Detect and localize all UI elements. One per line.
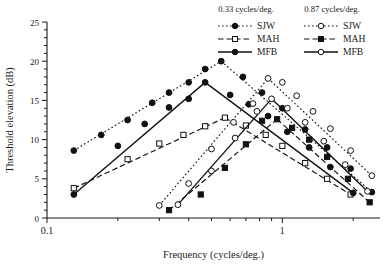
legend-label-mfb: MFB: [343, 46, 363, 57]
data-point-marker: [289, 125, 294, 130]
legend-label-sjw: SJW: [343, 20, 362, 31]
series-line: [159, 78, 268, 205]
data-point-marker: [125, 117, 131, 123]
y-tick-label: 25: [30, 18, 40, 28]
y-tick-label: 20: [30, 57, 40, 67]
data-point-marker: [186, 181, 192, 187]
legend-group-header: 0.87 cycles/deg.: [304, 4, 360, 14]
data-point-marker: [348, 166, 354, 172]
data-point-marker: [231, 119, 237, 125]
data-point-marker: [269, 96, 275, 102]
data-point-marker: [98, 132, 104, 138]
data-point-marker: [233, 37, 238, 42]
data-point-marker: [265, 76, 271, 82]
y-tick-label: 15: [30, 96, 40, 106]
legend-marker-mfb: [318, 49, 324, 55]
data-point-marker: [345, 176, 350, 181]
data-point-marker: [166, 105, 172, 111]
data-point-marker: [265, 113, 271, 119]
data-point-marker: [318, 49, 324, 55]
data-point-marker: [263, 132, 268, 137]
data-point-marker: [250, 101, 256, 107]
figure-container: 05101520250.11Frequency (cycles/deg.)Thr…: [0, 0, 392, 267]
data-point-marker: [342, 162, 348, 168]
series-line: [268, 78, 372, 175]
series-line: [74, 61, 221, 150]
data-point-marker: [259, 118, 264, 123]
legend-marker-mfb: [232, 49, 238, 55]
data-point-marker: [186, 96, 192, 102]
data-point-marker: [71, 148, 77, 154]
series-line: [205, 82, 353, 193]
series-mah-0-33-cycles-deg-: [71, 115, 353, 197]
legend-label-mah: MAH: [343, 33, 365, 44]
series-mfb-0-87-cycles-deg-: [175, 96, 370, 208]
data-point-marker: [115, 143, 121, 149]
data-point-marker: [166, 90, 172, 96]
legend-marker-mah: [233, 37, 238, 42]
data-point-marker: [186, 79, 192, 85]
data-point-marker: [209, 146, 215, 152]
x-tick-label: 0.1: [41, 225, 54, 236]
data-point-marker: [142, 121, 148, 127]
data-point-marker: [310, 108, 316, 114]
data-point-marker: [71, 186, 76, 191]
data-point-marker: [181, 132, 186, 137]
data-point-marker: [232, 49, 238, 55]
legend-label-sjw: SJW: [257, 20, 276, 31]
data-point-marker: [203, 124, 208, 129]
data-point-marker: [243, 142, 248, 147]
data-point-marker: [319, 37, 324, 42]
data-point-marker: [222, 115, 227, 120]
series-line: [272, 99, 368, 192]
data-point-marker: [284, 105, 290, 111]
y-tick-label: 5: [35, 174, 40, 184]
data-point-marker: [209, 168, 215, 174]
data-point-marker: [321, 138, 327, 144]
data-point-marker: [365, 188, 371, 194]
data-point-marker: [71, 192, 77, 198]
data-point-marker: [157, 141, 162, 146]
data-point-marker: [232, 23, 238, 29]
legend-marker-sjw: [232, 23, 238, 29]
data-point-marker: [325, 176, 330, 181]
data-point-marker: [175, 202, 181, 208]
chart-canvas: 05101520250.11Frequency (cycles/deg.)Thr…: [0, 0, 392, 267]
data-point-marker: [125, 157, 130, 162]
legend-label-mah: MAH: [257, 33, 279, 44]
data-point-marker: [350, 190, 356, 196]
x-tick-label: 1: [280, 225, 285, 236]
data-point-marker: [222, 165, 227, 170]
data-point-marker: [259, 90, 265, 96]
data-point-marker: [279, 79, 285, 85]
y-tick-label: 10: [30, 135, 40, 145]
data-point-marker: [302, 119, 308, 125]
data-point-marker: [156, 203, 162, 209]
data-point-marker: [348, 148, 354, 154]
data-point-marker: [198, 192, 203, 197]
data-point-marker: [327, 126, 333, 132]
data-point-marker: [280, 143, 285, 148]
legend-label-mfb: MFB: [257, 46, 277, 57]
data-point-marker: [240, 74, 246, 80]
y-axis-title: Threshold elevation (dB): [4, 67, 16, 173]
legend-group-header: 0.33 cycles/deg.: [218, 4, 274, 14]
data-point-marker: [202, 66, 208, 72]
legend-marker-mah: [319, 37, 324, 42]
data-point-marker: [149, 100, 155, 106]
data-point-marker: [227, 92, 233, 98]
data-point-marker: [367, 200, 372, 205]
data-point-marker: [274, 117, 279, 122]
legend-marker-sjw: [318, 23, 324, 29]
data-point-marker: [202, 79, 208, 85]
data-point-marker: [303, 161, 308, 166]
data-point-marker: [254, 108, 260, 114]
data-point-marker: [318, 23, 324, 29]
data-point-marker: [294, 93, 300, 99]
data-point-marker: [232, 135, 238, 141]
data-point-marker: [218, 58, 224, 64]
data-point-marker: [324, 145, 330, 151]
y-tick-label: 0: [35, 214, 40, 224]
data-point-marker: [166, 208, 171, 213]
data-point-marker: [369, 173, 375, 179]
